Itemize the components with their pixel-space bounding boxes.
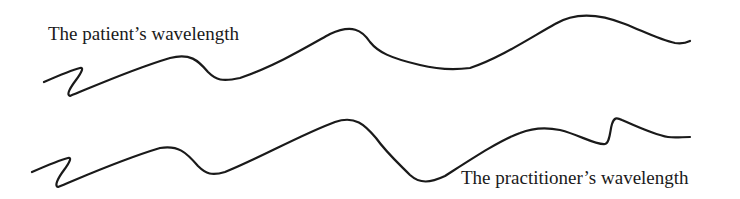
patient-wavelength-label: The patient’s wavelength xyxy=(48,24,239,43)
practitioner-wavelength-label: The practitioner’s wavelength xyxy=(461,168,689,187)
wavelength-diagram: The patient’s wavelength The practitione… xyxy=(0,0,740,199)
